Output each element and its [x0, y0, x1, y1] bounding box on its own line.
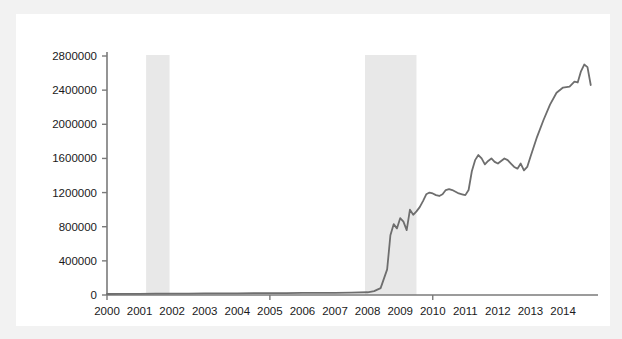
x-axis-ticks: 2000200120022003200420052006200720082009… [94, 295, 576, 317]
y-tick-label: 0 [91, 289, 97, 301]
y-tick-label: 1600000 [52, 152, 97, 164]
shaded-band-recession-2001 [146, 55, 169, 295]
line-chart[interactable]: 0400000800000120000016000002000000240000… [16, 14, 610, 326]
y-tick-label: 2800000 [52, 50, 97, 62]
x-tick-label: 2008 [355, 305, 381, 317]
y-tick-label: 400000 [59, 255, 97, 267]
x-tick-label: 2012 [485, 305, 511, 317]
axes [107, 52, 598, 295]
y-tick-label: 800000 [59, 221, 97, 233]
y-tick-label: 1200000 [52, 187, 97, 199]
x-tick-label: 2007 [322, 305, 348, 317]
x-tick-label: 2004 [225, 305, 251, 317]
figure-root: 0400000800000120000016000002000000240000… [0, 0, 622, 339]
data-series-balance [107, 65, 591, 294]
x-tick-label: 2003 [192, 305, 218, 317]
y-tick-label: 2000000 [52, 118, 97, 130]
x-tick-label: 2009 [387, 305, 413, 317]
x-tick-label: 2005 [257, 305, 283, 317]
x-tick-label: 2014 [550, 305, 576, 317]
x-tick-label: 2013 [518, 305, 544, 317]
x-tick-label: 2006 [290, 305, 316, 317]
y-tick-label: 2400000 [52, 84, 97, 96]
series-line-balance [107, 65, 591, 294]
shaded-recession-bands [146, 55, 416, 295]
shaded-band-recession-2008 [365, 55, 416, 295]
y-axis-ticks: 0400000800000120000016000002000000240000… [52, 50, 107, 301]
x-tick-label: 2010 [420, 305, 446, 317]
x-tick-label: 2000 [94, 305, 120, 317]
chart-panel: 0400000800000120000016000002000000240000… [16, 14, 610, 326]
x-tick-label: 2011 [453, 305, 478, 317]
x-tick-label: 2001 [127, 305, 153, 317]
x-tick-label: 2002 [159, 305, 185, 317]
